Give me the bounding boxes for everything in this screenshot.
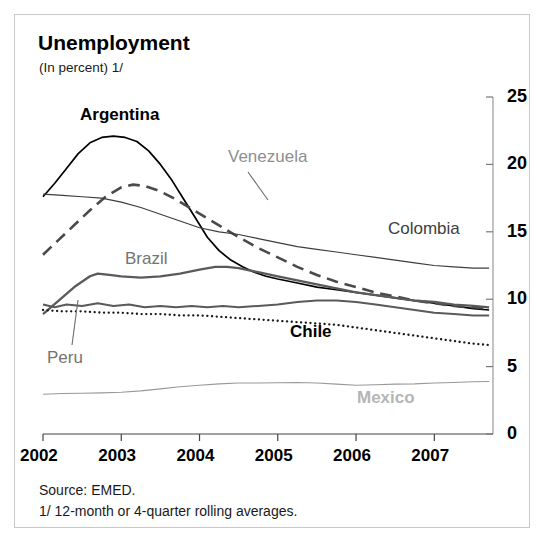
y-tick-label: 10 [507,288,527,309]
x-tick-label: 2003 [98,446,136,466]
series-line-venezuela [43,185,489,309]
y-tick-label: 0 [507,423,517,444]
y-tick-label: 20 [507,153,527,174]
x-tick-label: 2002 [20,446,58,466]
x-tick-label: 2006 [333,446,371,466]
series-label-chile: Chile [290,322,332,342]
leader-line-peru [72,300,78,345]
footnote-note: 1/ 12-month or 4-quarter rolling average… [39,503,297,519]
y-tick-label: 15 [507,221,527,242]
series-label-colombia: Colombia [388,219,460,239]
y-tick-label: 5 [507,356,517,377]
x-tick-label: 2004 [177,446,215,466]
series-line-chile [43,310,489,345]
series-layer [43,136,489,394]
series-label-brazil: Brazil [125,249,168,269]
series-line-mexico [43,381,489,394]
series-label-mexico: Mexico [357,388,415,408]
source-note: Source: EMED. [39,482,135,498]
x-tick-label: 2005 [255,446,293,466]
series-label-peru: Peru [47,348,83,368]
series-label-argentina: Argentina [80,105,159,125]
unemployment-chart-figure: Unemployment (In percent) 1/ 2520151050 … [0,0,543,541]
series-label-venezuela: Venezuela [228,147,307,167]
series-line-brazil [43,267,489,314]
x-tick-label: 2007 [411,446,449,466]
leader-line-venezuela [248,172,268,200]
y-tick-label: 25 [507,86,527,107]
